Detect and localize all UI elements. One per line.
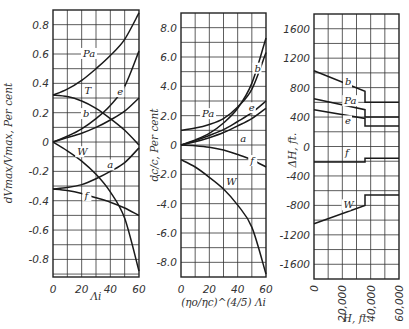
panel-left: 0.80.60.40.20-0.2-0.4-0.6-0.80204060ΛidV… [2,10,146,302]
y-tick-label: -400 [286,170,310,182]
y-tick-label: 0 [303,141,310,153]
y-tick-label: 6.0 [160,51,177,63]
curve-label-pa: Pa [201,108,214,119]
panel-middle: 8.06.04.02.00-2.0-4.0-6.0-8.00204060(ηo/… [148,13,273,308]
y-tick-label: 2.0 [160,110,177,122]
y-tick-label: 0.2 [32,107,49,119]
x-tick-label: 40 [231,283,245,295]
y-tick-label: 0 [42,136,49,148]
y-tick-label: 0.6 [32,48,49,60]
y-tick-label: 800 [290,82,310,94]
x-tick-label: 20 [75,283,89,295]
curve-label-b: b [345,76,351,87]
curve-label-e: e [117,86,123,97]
y-tick-label: -8.0 [157,256,178,268]
y-tick-label: 0.4 [32,77,49,89]
y-tick-label: 0.8 [32,19,49,31]
x-axis-label: Λi [90,290,102,302]
y-tick-label: -0.2 [29,165,50,177]
x-tick-label: 60,000 [393,285,405,322]
x-tick-label: 20 [203,283,217,295]
y-tick-label: -1200 [279,229,310,241]
curve-label-w: W [344,199,355,210]
curve-label-pa: Pa [343,95,356,106]
grid-lines [314,14,399,279]
y-tick-label: -0.4 [29,195,50,207]
y-tick-label: -0.6 [29,224,50,236]
x-axis-label: H, ft. [342,312,370,324]
panel-right: 160012008004000-400-800-1200-1600020,000… [279,14,405,324]
x-tick-label: 60 [259,283,273,295]
three-panel-chart: 0.80.60.40.20-0.2-0.4-0.6-0.80204060ΛidV… [0,0,409,329]
y-tick-label: 1200 [283,52,310,64]
x-tick-label: 0 [178,283,185,295]
y-tick-label: -6.0 [157,227,178,239]
curve-label-w: W [77,146,88,157]
curve-label-b: b [255,63,261,74]
curve-label-pa: Pa [82,48,95,59]
curve-label-e: e [345,115,351,126]
y-tick-label: 4.0 [160,80,177,92]
curve-label-e: e [249,102,255,113]
x-tick-label: 0 [50,283,57,295]
y-tick-label: 0 [170,139,177,151]
curve-label-a: a [240,133,246,144]
x-tick-label: 0 [308,285,320,292]
y-tick-label: 8.0 [160,22,177,34]
y-tick-label: -4.0 [157,198,178,210]
curve-label-w: W [226,176,237,187]
x-axis-label: (ηo/ηc)^(4/5) Λi [181,296,266,308]
curve-label-a: a [107,159,113,170]
x-tick-label: 40 [104,283,118,295]
y-axis-label: ΔH, ft. [286,133,298,169]
curve-label-b: b [83,108,89,119]
y-axis-label: dc/c, Per cent [148,108,160,182]
x-tick-label: 60 [132,283,146,295]
y-tick-label: -1600 [279,258,310,270]
y-axis-label: dVmax/Vmax, Per cent [2,82,14,203]
y-tick-label: -0.8 [29,253,50,265]
y-tick-label: 400 [290,111,310,123]
y-tick-label: 1600 [283,23,310,35]
y-tick-label: -800 [286,199,310,211]
